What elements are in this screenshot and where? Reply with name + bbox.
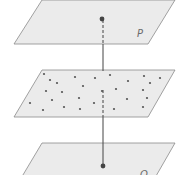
plane-point	[127, 80, 129, 82]
plane-point	[82, 85, 84, 87]
plane-point	[146, 97, 148, 99]
plane-point	[149, 82, 151, 84]
plane-label: Q	[140, 169, 148, 175]
plane-point	[45, 90, 47, 92]
parallel-planes-diagram: PQ	[0, 0, 190, 175]
plane-point	[142, 106, 144, 108]
plane-point	[94, 77, 96, 79]
plane-point	[142, 89, 144, 91]
plane-point	[159, 77, 161, 79]
plane-point	[56, 82, 58, 84]
plane-point	[101, 90, 103, 92]
plane-point	[74, 76, 76, 78]
plane-point	[42, 109, 44, 111]
intersection-point	[100, 17, 105, 22]
plane-point	[49, 79, 51, 81]
plane-point	[78, 97, 80, 99]
plane-point	[115, 88, 117, 90]
plane-point	[43, 73, 45, 75]
plane-point	[113, 108, 115, 110]
plane-point	[61, 91, 63, 93]
plane-point	[51, 99, 53, 101]
plane-point	[126, 98, 128, 100]
plane-Q	[14, 143, 175, 175]
plane-point	[79, 108, 81, 110]
plane-P	[14, 0, 175, 44]
plane-point	[143, 75, 145, 77]
plane-point	[109, 74, 111, 76]
plane-point	[29, 102, 31, 104]
plane-label: P	[137, 28, 144, 39]
intersection-point	[101, 164, 106, 169]
plane-point	[63, 106, 65, 108]
plane-point	[93, 102, 95, 104]
